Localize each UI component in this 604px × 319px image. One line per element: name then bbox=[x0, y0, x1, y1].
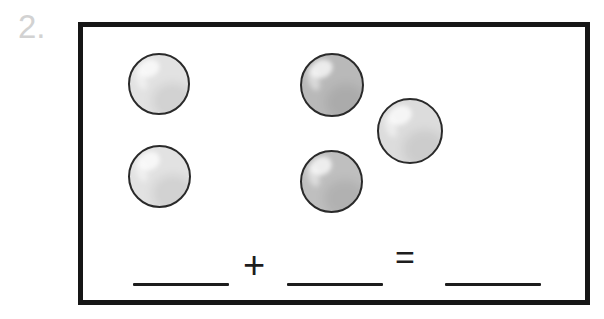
counter-shadow bbox=[152, 175, 191, 208]
counter-top-middle[interactable] bbox=[300, 53, 364, 117]
problem-box: + = bbox=[78, 22, 590, 305]
counter-shadow bbox=[403, 130, 443, 164]
counter-shadow bbox=[325, 84, 364, 117]
counter-bottom-middle[interactable] bbox=[300, 150, 363, 213]
worksheet-page: 2. bbox=[0, 0, 604, 319]
equation-row: + = bbox=[83, 234, 585, 296]
problem-number-label: 2. bbox=[18, 10, 46, 43]
counter-middle-right[interactable] bbox=[377, 98, 443, 164]
answer-blank-addend-1[interactable] bbox=[133, 283, 229, 286]
counter-shadow bbox=[152, 83, 190, 115]
answer-blank-sum[interactable] bbox=[445, 283, 541, 286]
counter-top-left[interactable] bbox=[128, 53, 190, 115]
plus-operator-icon: + bbox=[243, 246, 265, 284]
equals-operator-icon: = bbox=[395, 240, 415, 274]
counter-shadow bbox=[324, 180, 363, 213]
counter-bottom-left[interactable] bbox=[128, 145, 191, 208]
answer-blank-addend-2[interactable] bbox=[287, 283, 383, 286]
